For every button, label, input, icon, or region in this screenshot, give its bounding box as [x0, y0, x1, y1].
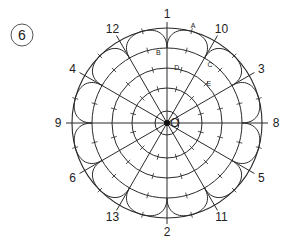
badge-number: 6	[18, 27, 26, 43]
ray-label-6: 6	[69, 171, 76, 185]
ray-label-5: 5	[258, 171, 265, 185]
point-labels: ABCDE	[156, 22, 213, 86]
diagram-canvas: 6 1103851121369412 ABCDE O	[0, 0, 286, 248]
point-label-B: B	[156, 49, 161, 56]
center-label: O	[170, 116, 179, 130]
point-label-E: E	[206, 80, 211, 87]
point-label-D: D	[174, 64, 179, 71]
ray-label-13: 13	[106, 210, 120, 224]
ray-label-2: 2	[164, 225, 171, 239]
point-label-C: C	[207, 61, 212, 68]
ray-label-11: 11	[215, 210, 228, 224]
point-label-A: A	[191, 22, 196, 29]
ray-label-8: 8	[273, 116, 280, 130]
center: O	[164, 116, 179, 130]
ray-label-9: 9	[55, 116, 62, 130]
polar-petal-diagram: 6 1103851121369412 ABCDE O	[0, 0, 286, 248]
figure-badge: 6	[11, 24, 33, 46]
ray-label-10: 10	[215, 22, 229, 36]
ray-label-1: 1	[164, 7, 171, 21]
ray-label-3: 3	[258, 62, 265, 76]
ray-label-4: 4	[69, 62, 76, 76]
ray-label-12: 12	[106, 22, 120, 36]
